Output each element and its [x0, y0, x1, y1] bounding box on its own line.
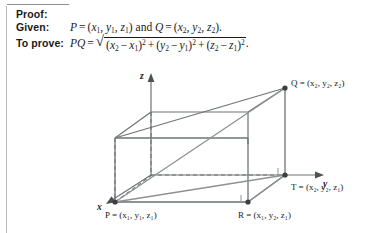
- vertex-t-label: T = (x₂, y₂, z₁): [291, 182, 343, 192]
- given-row: Given: P=(x1, y1, z1) and Q=(x2, y2, z2)…: [16, 21, 374, 35]
- proof-text-block: Proof: Given: P=(x1, y1, z1) and Q=(x2, …: [16, 8, 374, 53]
- formula-plus-1: +: [146, 39, 157, 51]
- formula-plus-2: +: [196, 39, 207, 51]
- formula-equals: =: [85, 37, 96, 49]
- top-divider: [7, 4, 69, 5]
- given-equals-2: =: [163, 21, 174, 33]
- radicand: (x2−x1)2+(y2−y1)2+(z2−z1)2: [104, 37, 246, 53]
- conjunction-and: and: [136, 21, 153, 33]
- box-top-face: [115, 88, 285, 144]
- vertex-p-label: P = (x₁, y₁, z₁): [105, 210, 157, 220]
- vertex-r-label: R = (x₁, y₂, z₁): [238, 210, 291, 220]
- given-statement: P=(x1, y1, z1) and Q=(x2, y2, z2).: [70, 21, 222, 35]
- x-axis-label: x: [96, 202, 102, 212]
- diagonals-from-p: [115, 88, 285, 202]
- z-axis-label: z: [139, 71, 144, 81]
- proof-heading-row: Proof:: [16, 8, 374, 20]
- to-prove-label: To prove:: [16, 37, 70, 49]
- formula-period: .: [246, 37, 249, 49]
- vertex-q-label: Q = (x₂, y₂, z₂): [291, 78, 344, 88]
- coordinate-box-diagram: z y x Q = (x₂, y₂, z₂) T = (x₂, y₂, z₁) …: [95, 66, 381, 233]
- given-period: .: [219, 21, 222, 33]
- distance-formula: PQ=√(x2−x1)2+(y2−y1)2+(z2−z1)2.: [70, 37, 249, 53]
- vertex-r-dot: [245, 199, 250, 204]
- proof-figure-page: Proof: Given: P=(x1, y1, z1) and Q=(x2, …: [0, 0, 381, 233]
- given-label: Given:: [16, 21, 70, 33]
- vertex-q-dot: [282, 85, 287, 90]
- left-divider: [6, 6, 7, 233]
- formula-lhs: PQ: [70, 37, 85, 49]
- proof-heading: Proof:: [16, 8, 48, 20]
- to-prove-row: To prove: PQ=√(x2−x1)2+(y2−y1)2+(z2−z1)2…: [16, 37, 374, 53]
- z-axis: [148, 73, 155, 175]
- radical-sign: √: [96, 36, 104, 47]
- point-p-symbol: P: [70, 21, 77, 33]
- t3-exp: 2: [241, 38, 245, 47]
- t1-minus: −: [119, 39, 130, 51]
- vertex-t-dot: [282, 172, 287, 177]
- t2-minus: −: [169, 39, 180, 51]
- t3-minus: −: [218, 39, 229, 51]
- vertex-p-dot: [112, 199, 117, 204]
- given-equals-1: =: [77, 21, 88, 33]
- square-root-expression: √(x2−x1)2+(y2−y1)2+(z2−z1)2: [96, 37, 246, 53]
